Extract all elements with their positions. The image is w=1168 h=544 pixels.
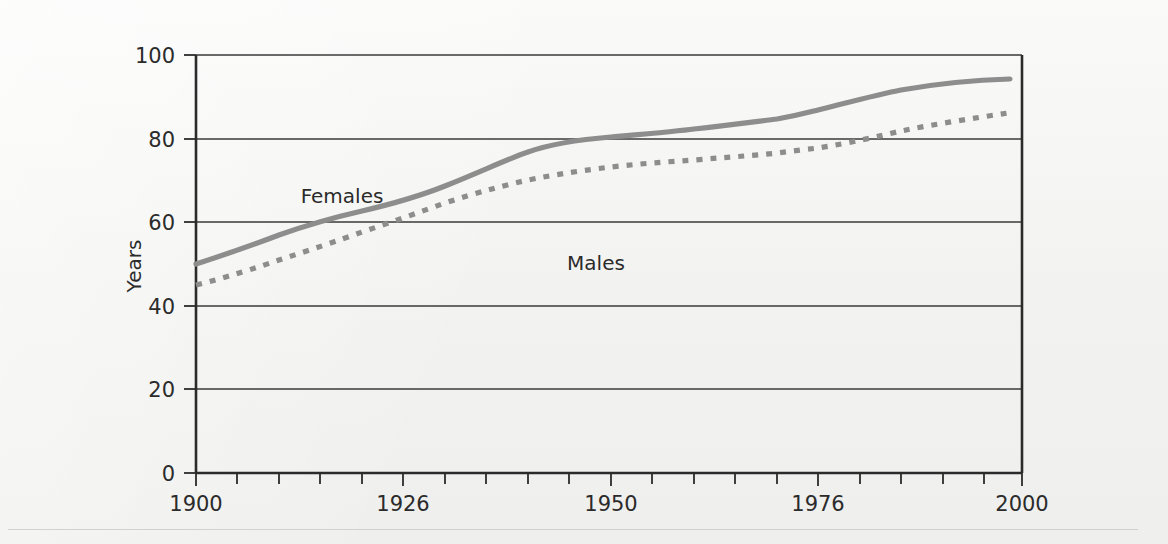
y-tick-label-20: 20 (148, 378, 175, 402)
y-tick-label-80: 80 (148, 128, 175, 152)
y-tick-label-100: 100 (135, 44, 175, 68)
x-tick-label-1926: 1926 (376, 492, 429, 516)
y-tick-label-60: 60 (148, 211, 175, 235)
series-label-males: Males (567, 251, 625, 275)
series-label-females: Females (301, 184, 384, 208)
page-rule (8, 529, 1138, 530)
y-tick-label-40: 40 (148, 295, 175, 319)
series-line-females (196, 79, 1010, 264)
chart-svg: 100 80 60 40 20 0 1900 1926 1950 1976 20… (0, 0, 1168, 544)
x-tick-label-1950: 1950 (584, 492, 637, 516)
x-tick-label-2000: 2000 (995, 492, 1048, 516)
x-tick-label-1976: 1976 (791, 492, 844, 516)
x-tick-label-1900: 1900 (169, 492, 222, 516)
line-chart-figure: 100 80 60 40 20 0 1900 1926 1950 1976 20… (0, 0, 1168, 544)
y-axis-title: Years (122, 240, 146, 294)
y-tick-label-0: 0 (162, 462, 175, 486)
x-tick-marks (196, 473, 1022, 486)
